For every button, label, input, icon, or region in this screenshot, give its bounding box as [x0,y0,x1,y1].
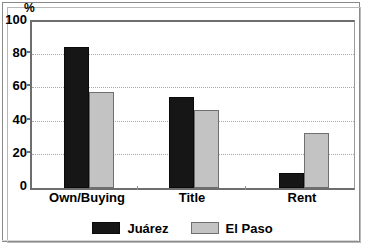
y-tick-label-60: 60 [0,79,27,92]
y-tick-label-80: 80 [0,46,27,59]
x-label-title: Title [132,190,252,206]
x-label-own-buying: Own/Buying [27,190,147,206]
y-tick-label-40: 40 [0,113,27,126]
x-tick-separator-2 [245,186,246,190]
legend-label: El Paso [226,222,273,235]
bar-elpaso-own-buying [89,92,114,188]
x-label-rent: Rent [242,190,362,206]
black-square-swatch [92,222,120,234]
bar-chart-figure: % 100806040200 Own/BuyingTitleRent Juáre… [0,0,365,246]
y-tick-label-20: 20 [0,146,27,159]
gray-square-swatch [191,222,219,234]
x-tick-separator-1 [137,186,138,190]
plot-area [30,20,355,190]
y-tick-label-0: 0 [0,179,27,192]
legend-entry-el-paso: El Paso [191,222,273,235]
scan-artifact-line [2,240,358,241]
legend-label: Juárez [127,222,168,235]
legend-entry-ju-rez: Juárez [92,222,168,235]
x-axis-category-labels: Own/BuyingTitleRent [30,190,354,210]
bar-elpaso-rent [304,133,329,188]
chart-legend: JuárezEl Paso [0,218,365,238]
bar-jurez-title [169,97,194,188]
bar-jurez-own-buying [64,47,89,188]
plot-inner [32,22,354,188]
y-axis-tick-labels: 100806040200 [0,20,27,186]
bar-jurez-rent [279,173,304,188]
y-tick-label-100: 100 [0,13,27,26]
bar-elpaso-title [194,110,219,188]
